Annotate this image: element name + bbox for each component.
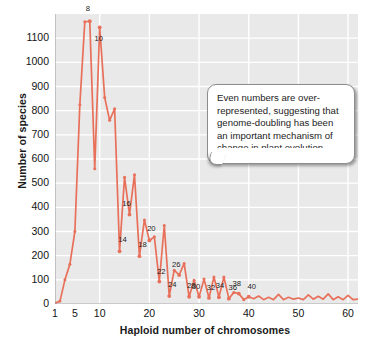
point-label-40: 40: [247, 282, 255, 291]
y-tick-1000: 1000: [3, 55, 49, 67]
y-tick-400: 400: [3, 200, 49, 212]
y-tick-300: 300: [3, 225, 49, 237]
point-label-20: 20: [147, 224, 155, 233]
y-tick-200: 200: [3, 249, 49, 261]
x-tick-20: 20: [132, 307, 166, 319]
point-label-30: 30: [192, 282, 200, 291]
point-label-10: 10: [94, 34, 102, 43]
callout-text: Even numbers are over-represented, sugge…: [217, 92, 339, 153]
x-tick-60: 60: [331, 307, 365, 319]
point-label-24: 24: [168, 280, 176, 289]
y-tick-500: 500: [3, 176, 49, 188]
y-tick-700: 700: [3, 128, 49, 140]
point-label-8: 8: [86, 4, 90, 13]
y-tick-1100: 1100: [3, 31, 49, 43]
x-tick-40: 40: [232, 307, 266, 319]
point-label-32: 32: [207, 283, 215, 292]
point-label-14: 14: [118, 235, 126, 244]
x-tick-30: 30: [182, 307, 216, 319]
point-label-34: 34: [216, 281, 224, 290]
x-tick-10: 10: [83, 307, 117, 319]
x-tick-50: 50: [281, 307, 315, 319]
point-label-22: 22: [157, 267, 165, 276]
figure-container: Number of species Haploid number of chro…: [0, 0, 367, 345]
point-label-26: 26: [172, 260, 180, 269]
callout-tail-mask: [208, 148, 354, 155]
y-tick-600: 600: [3, 152, 49, 164]
y-tick-900: 900: [3, 80, 49, 92]
y-tick-800: 800: [3, 104, 49, 116]
point-label-16: 16: [122, 199, 130, 208]
y-tick-100: 100: [3, 273, 49, 285]
point-label-38: 38: [233, 279, 241, 288]
clipped-caption-fragment: [0, 0, 367, 7]
x-axis-title: Haploid number of chromosomes: [55, 324, 355, 336]
point-label-18: 18: [138, 240, 146, 249]
